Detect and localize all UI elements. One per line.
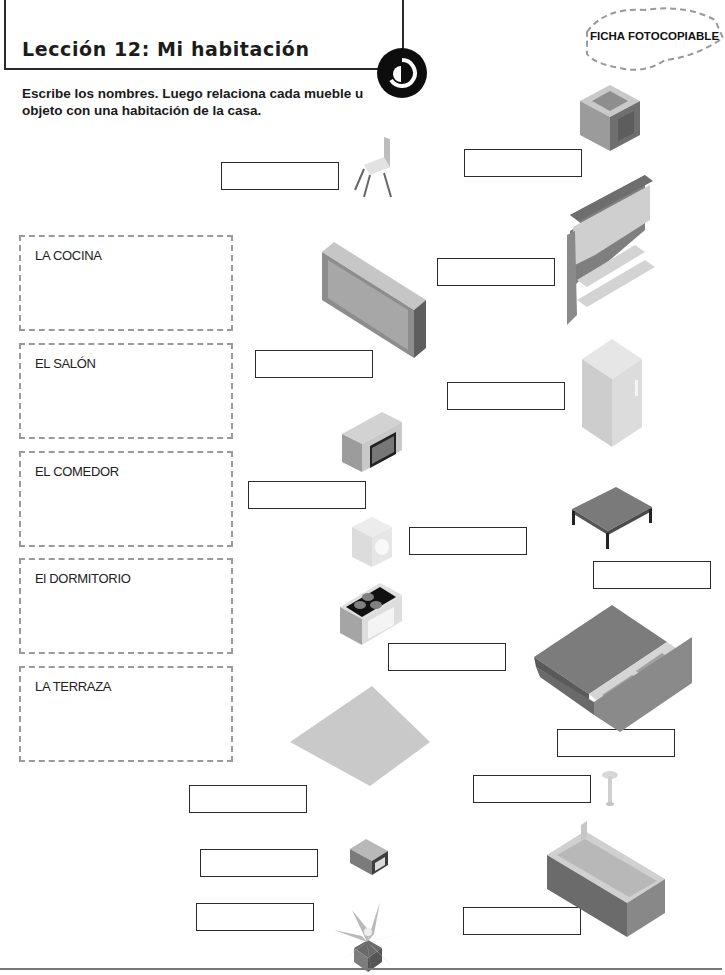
bed-icon (532, 597, 697, 732)
rug-icon (290, 686, 430, 786)
washing-machine-icon (350, 515, 395, 570)
cooker-icon (338, 573, 408, 648)
room-box-terraza[interactable]: LA TERRAZA (19, 666, 233, 762)
answer-box-lamp[interactable] (473, 775, 591, 803)
room-label: LA COCINA (35, 248, 102, 263)
microwave-icon (340, 406, 410, 476)
room-box-dormitorio[interactable]: El DORMITORIO (19, 558, 233, 654)
publisher-logo-icon (377, 48, 427, 98)
wall-unit-icon (565, 175, 665, 320)
answer-box-plant[interactable] (196, 903, 314, 931)
photocopiable-badge: FICHA FOTOCOPIABLE (590, 30, 719, 42)
armchair-icon (578, 73, 643, 153)
answer-box-chair[interactable] (221, 162, 339, 190)
answer-box-washing-machine[interactable] (409, 527, 527, 555)
instructions-text: Escribe los nombres. Luego relaciona cad… (22, 85, 372, 119)
room-label: LA TERRAZA (35, 679, 111, 694)
answer-box-fridge[interactable] (447, 382, 565, 410)
room-box-comedor[interactable]: EL COMEDOR (19, 451, 233, 547)
lamp-icon (600, 770, 620, 810)
fridge-icon (580, 335, 650, 450)
page-title: Lección 12: Mi habitación (22, 38, 310, 60)
page-edge-divider (0, 968, 722, 970)
chair-icon (352, 135, 397, 200)
room-label: El DORMITORIO (35, 571, 131, 586)
plant-icon (332, 900, 402, 975)
television-icon (348, 837, 393, 877)
sofa-icon (545, 815, 675, 940)
answer-box-bed[interactable] (557, 729, 675, 757)
answer-box-microwave[interactable] (248, 481, 366, 509)
sideboard-icon (320, 240, 430, 365)
room-box-salon[interactable]: EL SALÓN (19, 343, 233, 439)
room-label: EL COMEDOR (35, 464, 119, 479)
answer-box-rug[interactable] (189, 785, 307, 813)
room-box-cocina[interactable]: LA COCINA (19, 235, 233, 331)
answer-box-television[interactable] (200, 849, 318, 877)
table-icon (570, 475, 660, 550)
room-label: EL SALÓN (35, 356, 96, 371)
answer-box-sideboard[interactable] (437, 258, 555, 286)
answer-box-table[interactable] (593, 561, 711, 589)
answer-box-armchair[interactable] (464, 149, 582, 177)
